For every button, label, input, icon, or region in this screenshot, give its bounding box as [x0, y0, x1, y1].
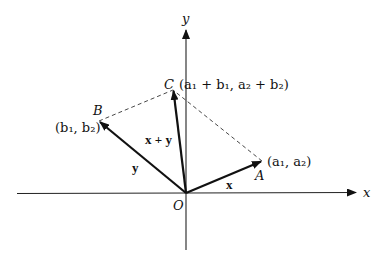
vector-sum-label: x + y [145, 132, 172, 147]
point-a-label: A [254, 168, 264, 183]
dashed-edge-bc [99, 90, 173, 121]
y-axis-label: y [181, 11, 190, 26]
vector-y-arrow [100, 122, 186, 193]
vector-y-label: y [132, 160, 139, 175]
vector-addition-diagram: x y O C (a₁ + b₁, a₂ + b₂) B (b₁, b₂) A … [0, 0, 383, 265]
point-c-label: C [164, 77, 174, 92]
x-axis-label: x [363, 185, 371, 200]
point-b-coords: (b₁, b₂) [55, 120, 100, 135]
origin-label: O [173, 198, 184, 213]
vector-sum-arrow [174, 91, 187, 193]
point-c-coords: (a₁ + b₁, a₂ + b₂) [179, 77, 289, 92]
vector-x-label: x [226, 177, 233, 192]
vector-x-arrow [186, 162, 261, 194]
point-b-label: B [92, 103, 103, 118]
point-a-coords: (a₁, a₂) [267, 154, 311, 169]
